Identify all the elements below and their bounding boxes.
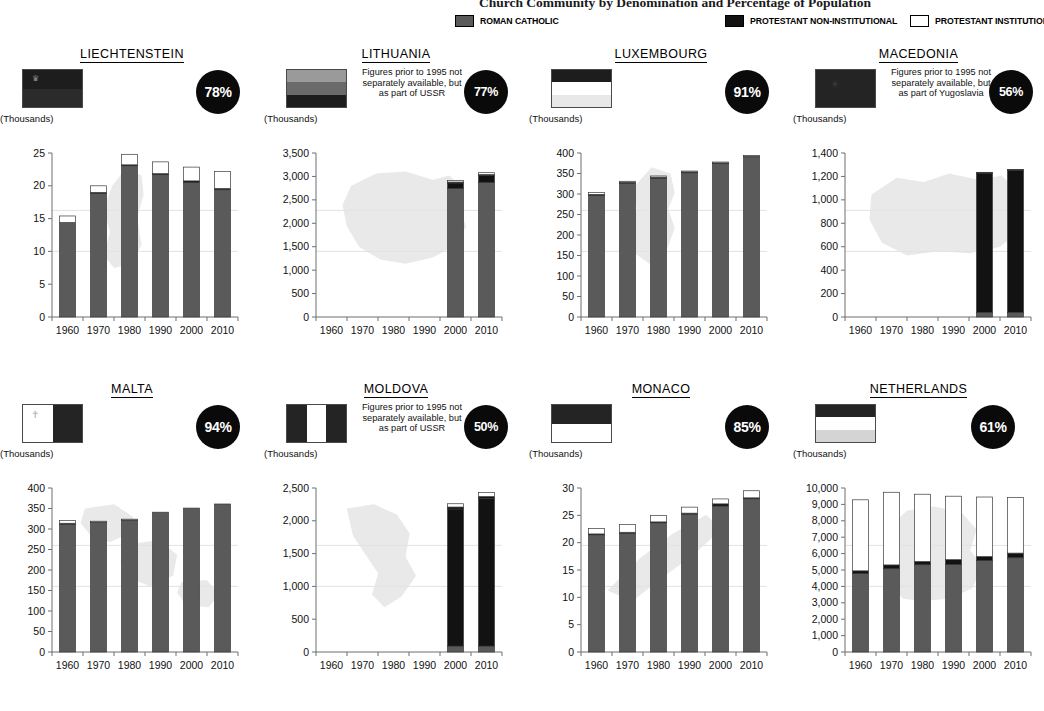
bar-group [91,521,107,652]
panel-title-macedonia: MACEDONIA [793,47,1044,61]
panel-title-malta: MALTA [0,382,264,396]
header: Church Community by Denomination and Per… [0,0,1044,30]
chart-monaco: 051015202530196019701980199020002010 [535,480,773,680]
y-tick-label: 100 [27,605,45,617]
bar-segment-prot_non_inst [977,557,993,561]
bar-segment-prot_inst [448,504,464,507]
flag-emblem-crown-icon: ♛ [32,75,39,83]
bar-segment-catholic [91,522,107,652]
legend-swatch-prot_non_inst [725,15,744,27]
x-tick-label: 2000 [444,324,468,336]
bar-group [713,162,729,317]
x-tick-label: 2000 [973,659,997,671]
y-tick-label: 15 [33,212,45,224]
y-tick-label: 25 [562,509,574,521]
flag-band [307,405,327,442]
panel-title-lithuania: LITHUANIA [264,47,528,61]
panel-monaco: MONACO(Thousands)85%05101520253019601970… [529,382,793,702]
flag-band [287,82,346,94]
y-tick-label: 1,000 [283,580,309,592]
y-tick-label: 400 [556,147,574,159]
bar-segment-prot_inst [91,186,107,193]
y-tick-label: 20 [562,536,574,548]
y-tick-label: 0 [832,646,838,658]
units-label: (Thousands) [529,113,582,124]
percent-badge: 56% [989,70,1033,114]
x-tick-label: 1990 [413,324,437,336]
infographic-root: Church Community by Denomination and Per… [0,0,1044,711]
x-tick-label: 1980 [118,659,142,671]
percent-badge: 61% [971,405,1015,449]
bar-segment-prot_inst [682,507,698,513]
x-tick-label: 1990 [149,659,173,671]
legend-swatch-catholic [455,15,474,27]
panel-title-luxembourg: LUXEMBOURG [529,47,793,61]
y-tick-label: 2,500 [283,193,309,205]
flag-lithuania [286,69,347,108]
bar-segment-prot_inst [884,492,900,565]
bar-group [479,493,495,652]
bar-group [589,528,605,652]
y-tick-label: 400 [27,482,45,494]
bar-segment-catholic [713,506,729,652]
bar-segment-orthodox [977,173,993,312]
bar-segment-catholic [651,522,667,652]
bar-segment-catholic [91,193,107,317]
chart-container: 02004006008001,0001,2001,400196019701980… [799,145,1037,345]
bar-segment-prot_inst [589,528,605,533]
y-tick-label: 250 [556,208,574,220]
legend-item-catholic: ROMAN CATHOLIC [455,14,566,27]
panel-title-text: MONACO [632,382,691,398]
chart-lithuania: 05001,0001,5002,0002,5003,0003,500196019… [270,145,508,345]
bar-segment-catholic [915,565,931,652]
x-tick-label: 1990 [678,659,702,671]
y-tick-label: 2,000 [283,217,309,229]
panel-title-netherlands: NETHERLANDS [793,382,1044,396]
bar-segment-catholic [946,565,962,652]
bar-group [977,497,993,652]
panel-moldova: MOLDOVA(Thousands)Figures prior to 1995 … [264,382,528,702]
flag-emblem-sun-icon: ☀ [830,79,840,90]
x-tick-label: 2010 [475,324,499,336]
y-tick-label: 200 [27,564,45,576]
x-tick-label: 2000 [709,659,733,671]
y-tick-label: 8,000 [812,514,838,526]
chart-moldova: 05001,0001,5002,0002,5001960197019801990… [270,480,508,680]
bar-segment-orthodox [479,175,495,182]
x-tick-label: 2000 [180,659,204,671]
panel-title-text: LIECHTENSTEIN [80,47,184,63]
y-tick-label: 1,000 [812,629,838,641]
bar-group [884,492,900,652]
y-tick-label: 350 [556,167,574,179]
bar-segment-prot_inst [589,192,605,194]
x-tick-label: 2010 [1004,324,1028,336]
bar-group [215,171,231,317]
legend-swatch-prot_inst [910,15,929,27]
bar-segment-catholic [60,223,76,317]
bar-group [153,512,169,652]
x-tick-label: 1980 [382,659,406,671]
chart-netherlands: 01,0002,0003,0004,0005,0006,0007,0008,00… [799,480,1037,680]
bar-segment-prot_inst [1008,497,1024,553]
legend-label-prot_inst: PROTESTANT INSTITUTIONAL [935,15,1044,26]
units-label: (Thousands) [264,448,317,459]
bar-group [184,167,200,317]
y-tick-label: 6,000 [812,547,838,559]
y-tick-label: 350 [27,502,45,514]
y-tick-label: 1,400 [812,147,838,159]
panel-title-text: NETHERLANDS [870,382,967,398]
units-label: (Thousands) [793,448,846,459]
page-title: Church Community by Denomination and Per… [440,0,910,11]
y-tick-label: 3,000 [283,170,309,182]
bar-segment-prot_non_inst [977,172,993,173]
bar-segment-prot_inst [682,171,698,172]
panel-title-moldova: MOLDOVA [264,382,528,396]
legend-item-prot_non_inst: PROTESTANT NON-INSTITUTIONAL [725,14,910,27]
bar-segment-prot_inst [744,491,760,498]
percent-badge: 94% [196,405,240,449]
bar-group [60,216,76,317]
bar-segment-catholic [713,163,729,317]
x-tick-label: 1970 [616,324,640,336]
y-tick-label: 150 [27,584,45,596]
y-tick-label: 2,000 [812,613,838,625]
